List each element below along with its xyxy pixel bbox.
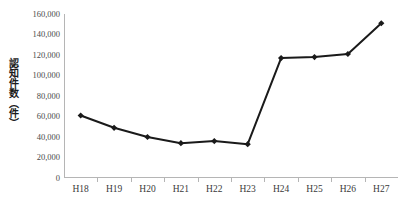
data-series-line	[64, 14, 398, 178]
x-axis-tick-labels: H18H19H20H21H22H23H24H25H26H27	[64, 183, 398, 199]
x-tick-mark	[97, 178, 98, 182]
x-tick-mark	[198, 178, 199, 182]
x-tick-label: H27	[361, 183, 401, 195]
data-point-marker	[211, 138, 217, 144]
y-tick-label: 40,000	[14, 133, 60, 142]
data-point-marker	[178, 140, 184, 146]
x-tick-mark	[131, 178, 132, 182]
series-polyline	[81, 23, 382, 144]
x-tick-mark	[298, 178, 299, 182]
data-point-marker	[111, 125, 117, 131]
y-tick-label: 0	[14, 174, 60, 183]
data-point-marker	[278, 55, 284, 61]
data-point-marker	[245, 141, 251, 147]
y-tick-label: 80,000	[14, 92, 60, 101]
y-tick-label: 120,000	[14, 51, 60, 60]
data-point-marker	[311, 54, 317, 60]
y-tick-label: 160,000	[14, 10, 60, 19]
x-tick-mark	[365, 178, 366, 182]
data-point-marker	[78, 112, 84, 118]
y-axis-tick-labels: 020,00040,00060,00080,000100,000120,0001…	[14, 0, 60, 212]
x-tick-mark	[331, 178, 332, 182]
line-chart: 認知件数（件） 020,00040,00060,00080,000100,000…	[0, 0, 403, 212]
data-point-marker	[144, 134, 150, 140]
y-tick-label: 20,000	[14, 153, 60, 162]
y-tick-label: 100,000	[14, 71, 60, 80]
plot-area	[64, 14, 398, 178]
x-tick-mark	[231, 178, 232, 182]
y-tick-label: 60,000	[14, 112, 60, 121]
y-tick-label: 140,000	[14, 30, 60, 39]
x-tick-mark	[164, 178, 165, 182]
x-tick-mark	[264, 178, 265, 182]
